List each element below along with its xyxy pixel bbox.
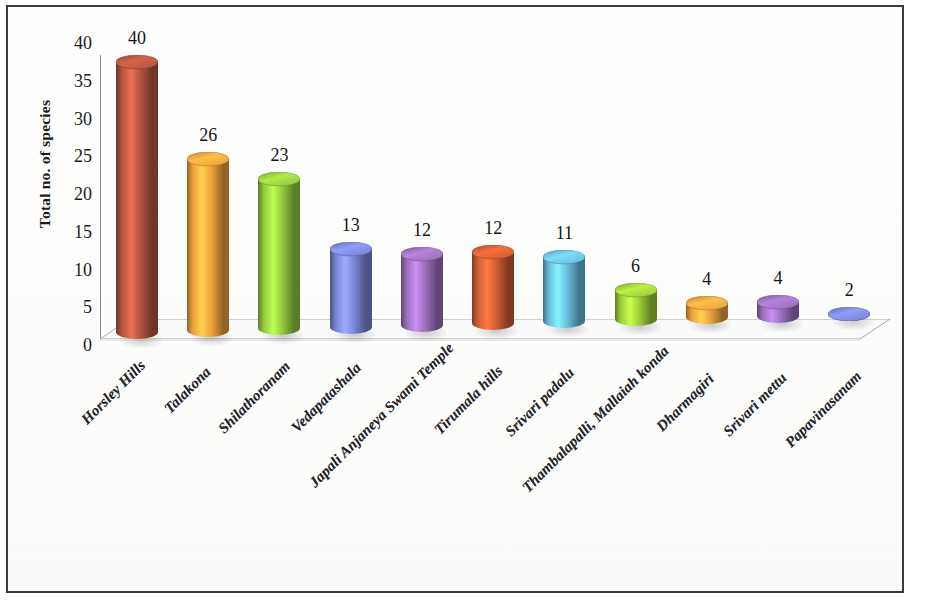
y-axis-tick-30: 30 [56, 110, 92, 128]
figure-container: Total no. of species 0510152025303540 [0, 0, 926, 612]
bar-1[interactable]: 26 [187, 152, 229, 337]
bar-4[interactable]: 12 [401, 247, 443, 332]
bar-value-label-10: 2 [845, 280, 854, 301]
bar-6[interactable]: 11 [543, 250, 585, 328]
bar-value-label-2: 23 [270, 145, 288, 166]
y-axis-tick-20: 20 [56, 185, 92, 203]
bar-value-label-1: 26 [199, 125, 217, 146]
y-axis-tick-5: 5 [56, 298, 92, 316]
y-axis-tick-0: 0 [56, 336, 92, 354]
y-axis-line [100, 55, 101, 339]
bar-value-label-4: 12 [413, 220, 431, 241]
bar-value-label-0: 40 [128, 28, 146, 49]
bar-value-label-9: 4 [774, 268, 783, 289]
y-axis-tick-35: 35 [56, 72, 92, 90]
bar-10[interactable]: 2 [828, 307, 870, 321]
bar-value-label-5: 12 [484, 218, 502, 239]
bar-3[interactable]: 13 [330, 242, 372, 334]
plot-area: 40 26 [100, 37, 890, 357]
bar-8[interactable]: 4 [686, 296, 728, 324]
chart-frame: Total no. of species 0510152025303540 [6, 5, 904, 593]
bar-9[interactable]: 4 [757, 295, 799, 323]
y-axis-tick-10: 10 [56, 261, 92, 279]
bar-2[interactable]: 23 [258, 172, 300, 335]
y-axis-tick-40: 40 [56, 34, 92, 52]
bar-value-label-3: 13 [342, 215, 360, 236]
y-axis-tick-labels: 0510152025303540 [56, 43, 92, 345]
y-axis-tick-15: 15 [56, 223, 92, 241]
bar-7[interactable]: 6 [615, 283, 657, 326]
bar-value-label-6: 11 [556, 223, 573, 244]
y-axis-tick-25: 25 [56, 147, 92, 165]
bar-value-label-7: 6 [631, 256, 640, 277]
bar-value-label-8: 4 [702, 269, 711, 290]
bar-5[interactable]: 12 [472, 245, 514, 330]
y-axis-title: Total no. of species [36, 69, 54, 259]
bar-0[interactable]: 40 [116, 55, 158, 339]
